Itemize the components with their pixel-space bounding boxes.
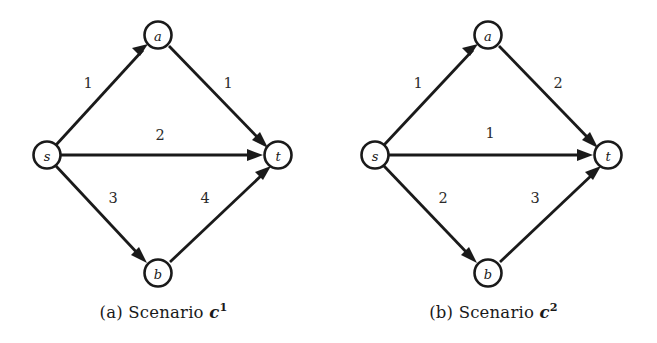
node-t-label: t: [275, 149, 281, 164]
node-t: t: [265, 142, 292, 169]
edge-s-b: [384, 166, 477, 263]
figure-scenario-network-pair: s a t b 1 1 2 3 4 (a) Scenario c1: [0, 0, 657, 343]
node-s-label: s: [372, 149, 379, 164]
node-b-label: b: [484, 267, 492, 282]
edge-s-b-line: [384, 166, 470, 256]
edge-label-b-t: 4: [200, 190, 209, 206]
node-a-label: a: [484, 29, 492, 44]
edge-b-t: [170, 166, 271, 262]
caption-b-text: (b) Scenario: [429, 303, 534, 322]
edge-b-t-line: [170, 173, 264, 262]
node-a: a: [145, 22, 172, 49]
panel-scenario-c1: s a t b 1 1 2 3 4 (a) Scenario c1: [0, 0, 327, 343]
edge-a-t: [169, 46, 268, 148]
edge-label-s-t: 2: [155, 127, 164, 143]
caption-a-symbol: c: [209, 303, 219, 322]
caption-panel-a: (a) Scenario c1: [0, 300, 327, 322]
panel-scenario-c2: s a t b 1 2 1 2 3 (b) Scenario c2: [330, 0, 657, 343]
node-t: t: [595, 142, 622, 169]
edge-s-t-arrowhead: [247, 149, 263, 161]
edge-label-a-t: 1: [223, 75, 232, 91]
edge-s-a: [56, 44, 148, 145]
edge-a-t-line: [499, 46, 592, 142]
caption-a-superscript: 1: [219, 300, 227, 314]
graph-diagram-c1: s a t b 1 1 2 3 4: [0, 0, 327, 300]
edge-b-t: [500, 166, 601, 262]
edge-s-b: [56, 166, 147, 263]
edge-label-b-t: 3: [530, 190, 539, 206]
node-s-label: s: [44, 149, 51, 164]
edge-s-a: [384, 44, 478, 145]
edge-a-t-line: [169, 46, 262, 142]
edge-s-t-arrowhead: [577, 149, 593, 161]
edge-s-b-line: [56, 166, 140, 256]
node-b: b: [145, 260, 172, 287]
graph-diagram-c2: s a t b 1 2 1 2 3: [330, 0, 657, 300]
edge-label-s-b: 3: [108, 190, 117, 206]
edge-a-t: [499, 46, 598, 148]
edge-s-a-arrowhead: [132, 44, 148, 56]
edge-s-a-arrowhead: [462, 44, 478, 56]
caption-panel-b: (b) Scenario c2: [330, 300, 657, 322]
edge-s-a-line: [384, 50, 473, 145]
edge-label-s-a: 1: [83, 75, 92, 91]
node-s: s: [362, 142, 389, 169]
edge-label-s-a: 1: [413, 75, 422, 91]
node-b: b: [475, 260, 502, 287]
node-a: a: [475, 22, 502, 49]
edge-s-t: [61, 149, 263, 161]
edge-s-t: [389, 149, 593, 161]
caption-b-superscript: 2: [550, 300, 558, 314]
edge-label-s-b: 2: [438, 190, 447, 206]
node-a-label: a: [154, 29, 162, 44]
caption-b-symbol: c: [540, 303, 550, 322]
edge-label-s-t: 1: [485, 125, 494, 141]
edge-label-a-t: 2: [553, 75, 562, 91]
caption-a-text: (a) Scenario: [100, 303, 204, 322]
node-s: s: [34, 142, 61, 169]
node-b-label: b: [154, 267, 162, 282]
node-t-label: t: [605, 149, 611, 164]
edge-s-a-line: [56, 50, 143, 145]
edge-b-t-line: [500, 173, 594, 262]
